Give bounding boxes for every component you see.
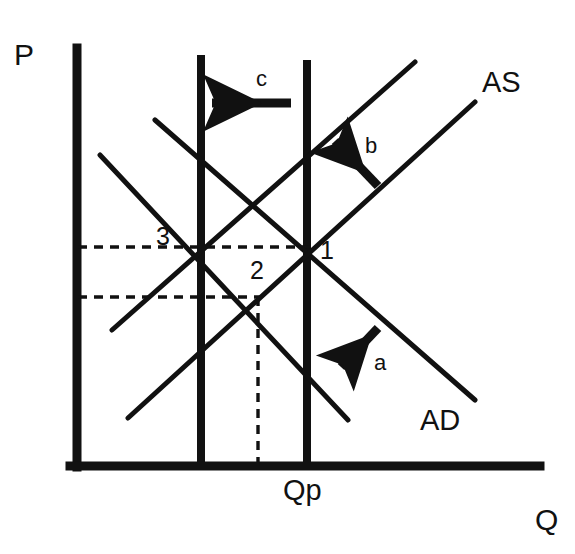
equilibrium-point-1-label: 1: [320, 238, 334, 263]
y-axis-label: P: [14, 40, 34, 70]
arrow-a-label: a: [374, 352, 386, 374]
arrow-a: [341, 328, 378, 367]
as-ad-diagram: P Q Qp AS AD 1 2 3 a b c: [0, 0, 575, 554]
x-axis-label: Q: [535, 505, 558, 535]
arrow-c-label: c: [256, 68, 267, 90]
ad-curve-label: AD: [420, 406, 460, 435]
qp-tick-label: Qp: [283, 476, 322, 505]
arrows-group: [212, 103, 378, 367]
equilibrium-point-3-label: 3: [156, 224, 170, 249]
equilibrium-point-2-label: 2: [250, 258, 264, 283]
arrow-b-label: b: [365, 135, 377, 157]
as-curve-label: AS: [482, 68, 521, 97]
